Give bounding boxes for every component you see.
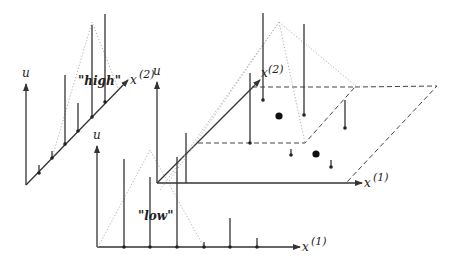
- high-label: "high": [78, 74, 121, 88]
- low-samples: [122, 157, 259, 249]
- joint-panel: u x (2) x (1): [153, 13, 437, 190]
- joint-membership-pyramid: [160, 22, 357, 190]
- joint-x2-axis: [157, 80, 260, 183]
- joint-samples: [186, 13, 347, 183]
- large-dot: [312, 150, 319, 157]
- high-membership-triangle: [52, 22, 118, 158]
- joint-x2-sup: (2): [268, 63, 284, 76]
- low-panel: u "low" x (1): [93, 128, 327, 254]
- high-x2-label: x: [130, 73, 137, 87]
- high-panel: u "high" x (2): [22, 14, 155, 185]
- outer-support-region: [347, 86, 437, 182]
- high-x2-axis: [26, 80, 128, 185]
- fuzzy-membership-diagram: u "high" x (2) u "low" x (1): [0, 0, 459, 263]
- joint-x1-label: x: [364, 176, 371, 190]
- low-x1-label: x: [302, 240, 309, 254]
- low-membership-triangle: [98, 150, 204, 247]
- low-u-label: u: [93, 128, 101, 142]
- joint-u-label: u: [153, 64, 161, 78]
- joint-x2-label: x: [261, 66, 268, 80]
- high-u-label: u: [22, 66, 30, 80]
- low-x1-sup: (1): [311, 235, 327, 248]
- low-label: "low": [138, 209, 173, 223]
- joint-x1-sup: (1): [373, 171, 389, 184]
- large-dot: [275, 112, 282, 119]
